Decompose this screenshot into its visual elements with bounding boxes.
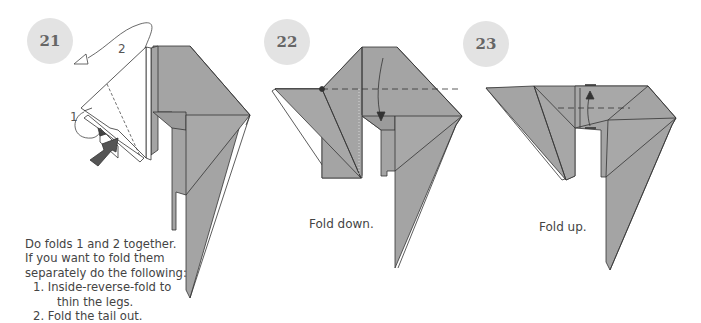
instruction-line: If you want to fold them [25,251,187,265]
step-23-caption: Fold up. [539,220,587,235]
instruction-item-continuation: thin the legs. [25,295,187,309]
fold-label-2: 2 [118,42,126,56]
instruction-line: separately do the following: [25,266,187,280]
step-number-badge: 23 [463,21,509,67]
instruction-line: Do folds 1 and 2 together. [25,237,187,251]
step-number-badge: 21 [27,18,73,64]
step-number-badge: 22 [264,19,310,65]
fold-label-1: 1 [70,110,78,124]
instruction-item: 2. Fold the tail out. [25,309,187,323]
step-21-instructions: Do folds 1 and 2 together. If you want t… [25,237,187,323]
step-23-diagram [486,85,676,270]
step-22-diagram [272,47,462,268]
instruction-item: 1. Inside-reverse-fold to [25,280,187,294]
step-22-caption: Fold down. [309,217,374,232]
